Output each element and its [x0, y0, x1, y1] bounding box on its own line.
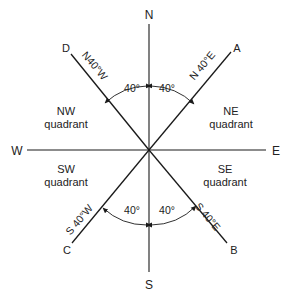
line-oa — [149, 52, 231, 150]
label-point-b: B — [230, 244, 237, 256]
bearing-label-c: S 40°W — [63, 202, 95, 237]
label-east: E — [272, 144, 280, 158]
angle-label-sw: 40° — [124, 204, 140, 216]
label-south: S — [145, 278, 153, 292]
quadrant-label-nw: NW — [57, 105, 76, 117]
quadrant-label-se-sub: quadrant — [203, 176, 246, 188]
quadrant-label-se: SE — [218, 163, 233, 175]
quadrant-label-nw-sub: quadrant — [44, 118, 87, 130]
quadrant-label-ne: NE — [223, 105, 238, 117]
label-point-a: A — [233, 42, 241, 54]
angle-label-nw: 40° — [124, 82, 140, 94]
angle-label-se: 40° — [159, 204, 175, 216]
line-oc — [72, 150, 149, 243]
bearing-label-d: N40°W — [80, 49, 111, 82]
label-point-d: D — [62, 42, 70, 54]
label-north: N — [145, 8, 154, 22]
bearing-label-b: S 40°E — [193, 200, 223, 233]
label-point-c: C — [63, 244, 71, 256]
quadrant-label-sw: SW — [57, 163, 75, 175]
bearing-label-a: N 40°E — [187, 49, 218, 82]
bearing-quadrant-diagram: N S W E A B C D N 40°E S 40°E S 40°W N40… — [0, 0, 294, 299]
quadrant-label-ne-sub: quadrant — [209, 118, 252, 130]
quadrant-label-sw-sub: quadrant — [44, 176, 87, 188]
label-west: W — [11, 144, 23, 158]
angle-label-ne: 40° — [159, 82, 175, 94]
line-od — [71, 54, 149, 150]
